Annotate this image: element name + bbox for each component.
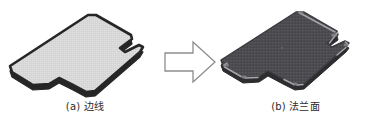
- panel-a-stage: [0, 0, 170, 100]
- panel-b-caption: (b) 法兰面: [215, 100, 376, 114]
- figure-arrow-panel: [160, 0, 220, 125]
- figure-root: (a) 边线: [0, 0, 376, 125]
- flange-center-marker: [281, 47, 283, 49]
- arrow-wrapper: [160, 38, 220, 86]
- flange-top-face: [221, 12, 349, 85]
- panel-a-caption-text: (a) 边线: [66, 101, 104, 112]
- edge-line-part-illustration: [0, 0, 170, 100]
- right-arrow-icon: [160, 38, 220, 86]
- figure-panel-a: (a) 边线: [0, 0, 170, 125]
- panel-b-caption-text: (b) 法兰面: [271, 101, 320, 112]
- figure-panel-b: (b) 法兰面: [215, 0, 376, 125]
- flange-face-part-illustration: [215, 0, 376, 100]
- panel-b-stage: [215, 0, 376, 100]
- panel-a-caption: (a) 边线: [0, 100, 170, 114]
- plate-top-face: [10, 15, 143, 92]
